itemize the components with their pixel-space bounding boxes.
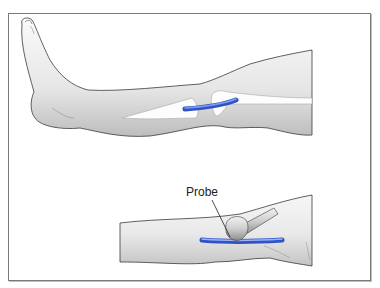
- probe-label: Probe: [186, 185, 218, 199]
- leg-illustration: [0, 0, 380, 288]
- bottom-leg: [120, 195, 312, 266]
- top-leg: [22, 18, 312, 136]
